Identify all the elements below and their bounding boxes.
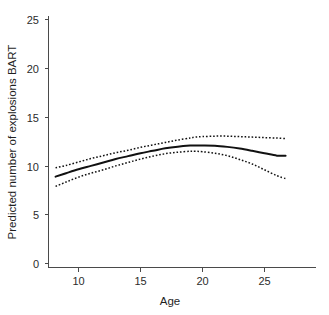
y-tick-label-10: 10 — [27, 161, 39, 173]
y-axis-ticks — [45, 20, 49, 264]
x-tick-label-25: 25 — [258, 275, 270, 287]
y-tick-label-20: 20 — [27, 63, 39, 75]
chart-figure: 25 20 15 10 5 0 10 15 20 25 Age Predicte… — [0, 0, 329, 315]
y-tick-label-15: 15 — [27, 112, 39, 124]
x-axis-ticks — [79, 268, 265, 273]
y-tick-label-5: 5 — [33, 209, 39, 221]
y-tick-label-0: 0 — [33, 258, 39, 270]
x-tick-label-10: 10 — [72, 275, 84, 287]
y-axis-title: Predicted number of explosions BART — [6, 45, 18, 240]
y-tick-label-25: 25 — [27, 14, 39, 26]
x-tick-label-20: 20 — [196, 275, 208, 287]
upper-confidence-band — [56, 136, 286, 168]
x-axis-title: Age — [160, 295, 180, 307]
chart-plot-area: 25 20 15 10 5 0 10 15 20 25 Age Predicte… — [0, 0, 329, 315]
x-axis-tick-labels: 10 15 20 25 — [72, 275, 270, 287]
y-axis-tick-labels: 25 20 15 10 5 0 — [27, 14, 39, 270]
lower-confidence-band — [56, 151, 286, 186]
x-tick-label-15: 15 — [134, 275, 146, 287]
fitted-curve-line — [56, 145, 286, 176]
